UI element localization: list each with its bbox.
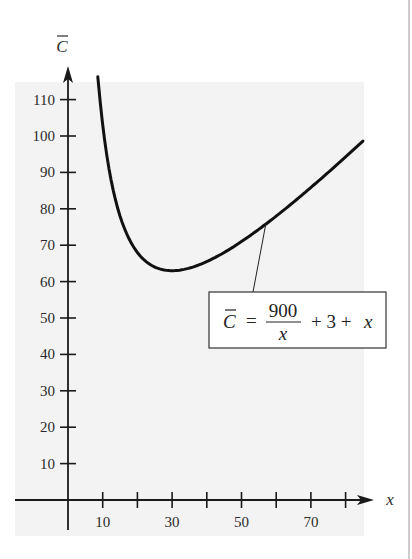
y-tick-label: 50 (40, 310, 55, 326)
x-axis-label: x (385, 490, 394, 509)
x-tick-label: 50 (234, 514, 249, 530)
y-tick-label: 20 (40, 419, 55, 435)
y-tick-label: 40 (40, 346, 55, 362)
y-tick-label: 90 (40, 164, 55, 180)
equation-denominator: x (278, 323, 288, 344)
equation-equals: = (246, 310, 257, 331)
equation-lhs: C (223, 311, 236, 332)
y-tick-label: 60 (40, 274, 55, 290)
x-tick-label: 70 (303, 514, 318, 530)
y-axis-label: C (56, 37, 68, 56)
y-tick-label: 10 (40, 456, 55, 472)
y-tick-label: 70 (40, 237, 55, 253)
equation-x: x (363, 311, 373, 332)
equation-rest: + 3 + (311, 311, 351, 332)
x-tick-label: 30 (165, 514, 180, 530)
x-tick-label: 10 (95, 514, 110, 530)
chart: Cx10203040506070809010011010305070C=900x… (0, 0, 412, 559)
y-tick-label: 80 (40, 201, 55, 217)
y-tick-label: 110 (33, 92, 55, 108)
equation-numerator: 900 (269, 300, 298, 321)
y-tick-label: 30 (40, 383, 55, 399)
y-tick-label: 100 (33, 128, 56, 144)
